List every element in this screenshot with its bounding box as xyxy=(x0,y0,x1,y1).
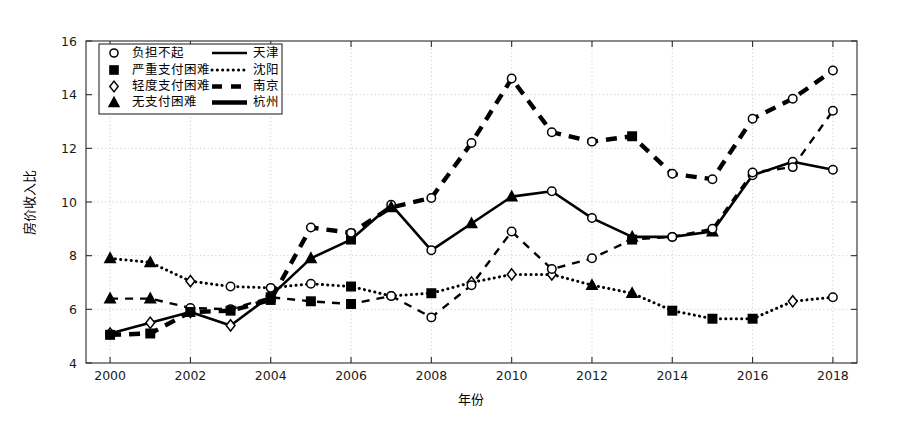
data-point-marker xyxy=(347,229,355,237)
x-tick-label: 2012 xyxy=(576,368,608,383)
y-axis-title: 房价收入比 xyxy=(22,170,37,235)
chart-legend: 负担不起严重支付困难轻度支付困难无支付困难天津沈阳南京杭州 xyxy=(99,44,282,114)
x-tick-label: 2010 xyxy=(496,368,528,383)
y-tick-label: 14 xyxy=(61,87,77,102)
data-point-marker xyxy=(668,170,676,178)
x-tick-label: 2016 xyxy=(737,368,769,383)
legend-line-label: 杭州 xyxy=(253,94,279,109)
y-tick-label: 8 xyxy=(69,248,77,263)
data-point-marker xyxy=(347,300,355,308)
data-point-marker xyxy=(427,289,435,297)
y-tick-label: 6 xyxy=(69,302,77,317)
x-tick-label: 2000 xyxy=(94,368,126,383)
data-point-marker xyxy=(307,280,315,288)
legend-line-label: 南京 xyxy=(253,78,279,93)
x-tick-label: 2006 xyxy=(335,368,367,383)
data-point-marker xyxy=(467,139,475,147)
data-point-marker xyxy=(110,66,118,74)
data-point-marker xyxy=(307,297,315,305)
data-point-marker xyxy=(427,313,435,321)
data-point-marker xyxy=(507,74,515,82)
data-point-marker xyxy=(507,227,515,235)
data-point-marker xyxy=(588,254,596,262)
chart-figure: 2000200220042006200820102012201420162018… xyxy=(0,0,907,424)
data-point-marker xyxy=(347,282,355,290)
data-point-marker xyxy=(146,329,154,337)
line-chart-svg: 2000200220042006200820102012201420162018… xyxy=(0,0,907,424)
x-tick-label: 2008 xyxy=(415,368,447,383)
data-point-marker xyxy=(588,137,596,145)
x-tick-label: 2018 xyxy=(817,368,849,383)
data-point-marker xyxy=(829,293,837,301)
data-point-marker xyxy=(748,115,756,123)
data-point-marker xyxy=(789,94,797,102)
data-point-marker xyxy=(708,314,716,322)
data-point-marker xyxy=(186,308,194,316)
data-point-marker xyxy=(708,175,716,183)
data-point-marker xyxy=(110,49,118,57)
data-point-marker xyxy=(387,292,395,300)
legend-marker-label: 无支付困难 xyxy=(132,94,197,109)
data-point-marker xyxy=(588,214,596,222)
legend-line-label: 天津 xyxy=(253,45,279,60)
legend-marker-label: 轻度支付困难 xyxy=(132,78,210,93)
data-point-marker xyxy=(748,314,756,322)
data-point-marker xyxy=(829,107,837,115)
data-point-marker xyxy=(467,281,475,289)
legend-marker-label: 负担不起 xyxy=(132,45,184,60)
legend-line-label: 沈阳 xyxy=(253,62,279,77)
data-point-marker xyxy=(548,265,556,273)
data-point-marker xyxy=(748,168,756,176)
data-point-marker xyxy=(427,246,435,254)
data-point-marker xyxy=(829,166,837,174)
data-point-marker xyxy=(789,163,797,171)
x-axis-title: 年份 xyxy=(458,392,484,407)
x-tick-label: 2004 xyxy=(255,368,287,383)
data-point-marker xyxy=(226,306,234,314)
y-tick-label: 10 xyxy=(61,195,77,210)
y-tick-label: 4 xyxy=(69,356,77,371)
data-point-marker xyxy=(106,331,114,339)
data-point-marker xyxy=(829,66,837,74)
x-tick-label: 2002 xyxy=(175,368,207,383)
data-point-marker xyxy=(668,306,676,314)
data-point-marker xyxy=(628,235,636,243)
data-point-marker xyxy=(307,223,315,231)
data-point-marker xyxy=(427,194,435,202)
data-point-marker xyxy=(628,132,636,140)
y-tick-label: 16 xyxy=(61,34,77,49)
data-point-marker xyxy=(226,282,234,290)
data-point-marker xyxy=(708,225,716,233)
data-point-marker xyxy=(548,128,556,136)
data-point-marker xyxy=(548,187,556,195)
legend-marker-label: 严重支付困难 xyxy=(132,62,210,77)
data-point-marker xyxy=(668,233,676,241)
x-tick-label: 2014 xyxy=(656,368,688,383)
y-tick-label: 12 xyxy=(61,141,77,156)
data-point-marker xyxy=(266,296,274,304)
